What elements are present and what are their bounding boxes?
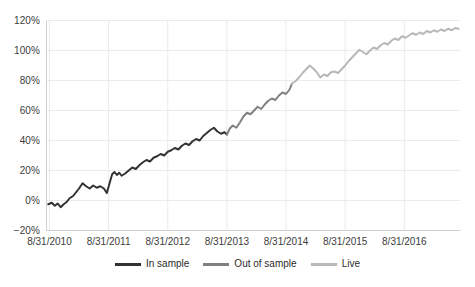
y-tick-label: 120% xyxy=(0,15,40,26)
series-lines xyxy=(48,28,458,207)
legend-label: Live xyxy=(342,258,360,270)
x-tick-label: 8/31/2012 xyxy=(136,236,200,247)
y-tick-label: 40% xyxy=(0,135,40,146)
legend-color-swatch xyxy=(203,263,229,266)
series-line xyxy=(227,84,292,135)
x-tick-label: 8/31/2013 xyxy=(195,236,259,247)
y-tick-label: 20% xyxy=(0,165,40,176)
cumulative-return-line-chart: 120%100%80%60%40%20%0%−20% 8/31/20108/31… xyxy=(0,0,475,287)
legend-color-swatch xyxy=(311,263,337,266)
y-tick-label: 100% xyxy=(0,45,40,56)
x-tick-label: 8/31/2011 xyxy=(77,236,141,247)
x-tick-label: 8/31/2015 xyxy=(313,236,377,247)
y-tick-label: 0% xyxy=(0,195,40,206)
x-tick-label: 8/31/2014 xyxy=(254,236,318,247)
series-line xyxy=(48,128,227,208)
y-tick-label: −20% xyxy=(0,225,40,236)
chart-legend: In sampleOut of sampleLive xyxy=(0,258,475,270)
x-tick-label: 8/31/2010 xyxy=(17,236,81,247)
legend-entry[interactable]: In sample xyxy=(115,258,189,270)
legend-entry[interactable]: Out of sample xyxy=(203,258,296,270)
grid-lines xyxy=(47,21,461,231)
y-tick-label: 80% xyxy=(0,75,40,86)
x-tick-label: 8/31/2016 xyxy=(372,236,436,247)
y-tick-label: 60% xyxy=(0,105,40,116)
series-line xyxy=(292,28,459,84)
legend-label: Out of sample xyxy=(234,258,296,270)
legend-color-swatch xyxy=(115,263,141,266)
legend-label: In sample xyxy=(146,258,189,270)
legend-entry[interactable]: Live xyxy=(311,258,360,270)
